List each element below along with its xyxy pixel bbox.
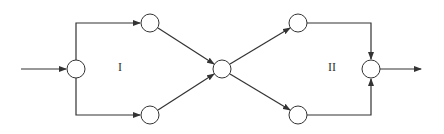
edge-top-left-to-center xyxy=(158,28,214,64)
node-bottom-right xyxy=(289,106,307,124)
edge-center-to-top-right xyxy=(230,28,290,64)
edge-bottom-left-to-center xyxy=(158,74,214,110)
edge-top-right-to-output xyxy=(307,23,371,59)
node-top-right xyxy=(289,14,307,32)
region-label-1: I xyxy=(118,60,122,74)
edge-center-to-bottom-right xyxy=(230,74,290,110)
edge-in-to-bottom-left xyxy=(76,78,140,115)
edge-bottom-right-to-output xyxy=(307,79,371,115)
edge-in-to-top-left xyxy=(76,23,140,60)
node-center xyxy=(213,60,231,78)
node-top-left xyxy=(141,14,159,32)
node-output xyxy=(362,60,380,78)
flow-diagram: I II xyxy=(0,0,444,134)
region-label-2: II xyxy=(328,60,336,74)
node-input xyxy=(67,60,85,78)
node-bottom-left xyxy=(141,106,159,124)
